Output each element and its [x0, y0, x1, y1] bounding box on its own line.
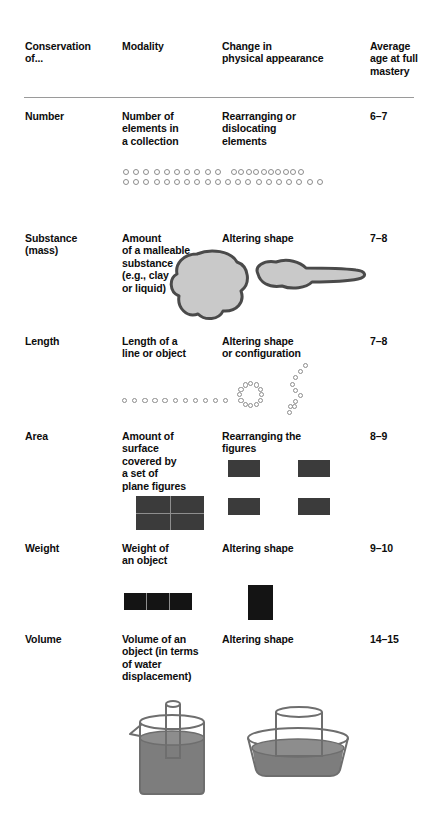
- header-average-age: Average age at full mastery: [370, 40, 432, 77]
- circle-token: [123, 169, 129, 175]
- row-volume-conservation: Volume: [25, 633, 117, 645]
- circle-token: [174, 169, 180, 175]
- circle-token: [133, 169, 139, 175]
- circle-token: [237, 392, 242, 397]
- circle-token: [154, 179, 160, 185]
- circle-token: [174, 179, 180, 185]
- row-substance-conservation: Substance (mass): [25, 232, 117, 257]
- figure-volume-tall-beaker: [126, 700, 222, 800]
- conservation-table-page: Conservation of... Modality Change in ph…: [0, 0, 438, 833]
- circle-token: [194, 169, 200, 175]
- circle-token: [254, 402, 259, 407]
- circle-token: [235, 179, 241, 185]
- circle-token: [215, 169, 221, 175]
- row-area-modality: Amount of surface covered by a set of pl…: [122, 430, 217, 492]
- circle-token: [283, 169, 289, 175]
- circle-token: [287, 410, 292, 415]
- circle-token: [154, 169, 160, 175]
- row-area-age: 8–9: [370, 430, 432, 442]
- row-length-conservation: Length: [25, 335, 117, 347]
- circle-token: [193, 398, 198, 403]
- circle-token: [122, 398, 127, 403]
- circle-token: [225, 179, 231, 185]
- circle-token: [248, 381, 253, 386]
- circle-token: [307, 179, 313, 185]
- row-length-modality: Length of a line or object: [122, 335, 217, 360]
- row-length-change: Altering shape or configuration: [222, 335, 362, 360]
- header-change: Change in physical appearance: [222, 40, 362, 65]
- figure-area-square-4: [298, 498, 330, 515]
- circle-token: [173, 398, 178, 403]
- figure-weight-vertical-bar: [248, 585, 273, 620]
- row-weight-modality: Weight of an object: [122, 542, 217, 567]
- row-area-change: Rearranging the figures: [222, 430, 362, 455]
- circle-token: [123, 179, 129, 185]
- circle-token: [296, 179, 302, 185]
- circle-token: [298, 369, 303, 374]
- circle-token: [248, 403, 253, 408]
- circle-token: [293, 399, 298, 404]
- circle-token: [203, 398, 208, 403]
- figure-area-square-1: [228, 460, 260, 477]
- circle-token: [258, 398, 263, 403]
- row-number-conservation: Number: [25, 110, 117, 122]
- circle-token: [205, 179, 211, 185]
- circle-token: [231, 169, 237, 175]
- circle-token: [223, 398, 228, 403]
- circle-token: [162, 398, 167, 403]
- circle-token: [258, 387, 263, 392]
- circle-token: [184, 179, 190, 185]
- circle-token: [292, 404, 297, 409]
- circle-token: [275, 169, 281, 175]
- circle-token: [246, 169, 252, 175]
- row-length-age: 7–8: [370, 335, 432, 347]
- header-conservation: Conservation of...: [25, 40, 117, 65]
- circle-token: [205, 169, 211, 175]
- header-modality: Modality: [122, 40, 217, 52]
- circle-token: [215, 179, 221, 185]
- circle-token: [293, 375, 298, 380]
- figure-weight-horizontal-bar: [124, 593, 192, 610]
- row-number-change: Rearranging or dislocating elements: [222, 110, 362, 147]
- circle-token: [317, 179, 323, 185]
- figure-clay-ball: [167, 248, 257, 320]
- figure-area-square-3: [228, 498, 260, 515]
- circle-token: [303, 363, 308, 368]
- figure-area-joined-block: [136, 496, 204, 530]
- circle-token: [213, 398, 218, 403]
- circle-token: [238, 169, 244, 175]
- row-volume-modality: Volume of an object (in terms of water d…: [122, 633, 217, 683]
- circle-token: [243, 382, 248, 387]
- circle-token: [286, 179, 292, 185]
- circle-token: [290, 169, 296, 175]
- circle-token: [293, 388, 298, 393]
- circle-token: [268, 169, 274, 175]
- row-volume-change: Altering shape: [222, 633, 362, 645]
- circle-token: [276, 179, 282, 185]
- circle-token: [238, 398, 243, 403]
- circle-token: [266, 179, 272, 185]
- circle-token: [288, 404, 293, 409]
- circle-token: [243, 402, 248, 407]
- circle-token: [261, 169, 267, 175]
- row-number-age: 6–7: [370, 110, 432, 122]
- row-area-conservation: Area: [25, 430, 117, 442]
- circle-token: [164, 179, 170, 185]
- row-substance-age: 7–8: [370, 232, 432, 244]
- circle-token: [183, 398, 188, 403]
- figure-clay-flattened: [248, 256, 368, 296]
- row-weight-age: 9–10: [370, 542, 432, 554]
- circle-token: [254, 382, 259, 387]
- circle-token: [245, 179, 251, 185]
- circle-token: [253, 169, 259, 175]
- circle-token: [256, 179, 262, 185]
- figure-volume-wide-dish: [238, 700, 358, 800]
- circle-token: [184, 169, 190, 175]
- row-weight-conservation: Weight: [25, 542, 117, 554]
- circle-token: [194, 179, 200, 185]
- row-volume-age: 14–15: [370, 633, 432, 645]
- circle-token: [238, 387, 243, 392]
- circle-token: [132, 398, 137, 403]
- circle-token: [259, 392, 264, 397]
- circle-token: [298, 169, 304, 175]
